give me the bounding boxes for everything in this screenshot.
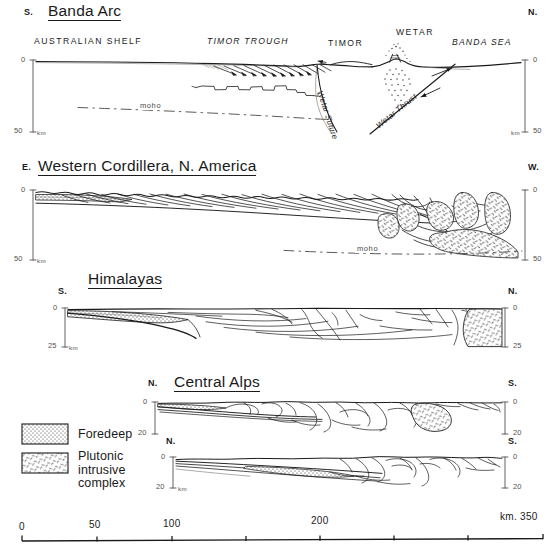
central-alps-lower-depth-bottom-right: 20	[513, 483, 521, 491]
western-cordillera-depth-top-left: 0	[21, 186, 25, 194]
banda-arc-depth-bottom-right: 50	[533, 127, 541, 135]
banda-arc-depth-bottom-left: 50	[14, 127, 22, 135]
banda-arc-depth-unit-left: km	[37, 130, 46, 136]
scalebar-tick-50: 50	[89, 520, 101, 530]
banda-arc-depth-top-right: 0	[533, 56, 537, 64]
central-alps-title: Central Alps	[174, 374, 260, 392]
central-alps-lower-right-direction: S.	[508, 437, 517, 446]
himalayas-depth-top-left: 0	[53, 304, 57, 312]
banda-arc-left-direction: S.	[24, 8, 33, 17]
scalebar-tick-100: 100	[163, 519, 181, 529]
western-cordillera-depth-unit-left: km	[37, 258, 46, 264]
banda-arc-depth-unit-right: km	[511, 130, 520, 136]
banda-arc-moho-label: moho	[138, 102, 163, 110]
himalayas-depth-top-right: 0	[513, 304, 517, 312]
western-cordillera-depth-top-right: 0	[533, 186, 537, 194]
western-cordillera-moho-label: moho	[355, 245, 380, 253]
western-cordillera-left-direction: E.	[22, 163, 31, 172]
himalayas-title: Himalayas	[88, 271, 162, 289]
region-wetar: WETAR	[396, 28, 434, 37]
central-alps-upper-depth-bottom-left: 20	[138, 429, 146, 437]
himalayas-depth-unit-left: km	[69, 345, 78, 351]
central-alps-upper-depth-top-right: 0	[513, 398, 517, 406]
central-alps-upper-depth-top-left: 0	[143, 398, 147, 406]
himalayas-depth-bottom-right: 25	[513, 342, 521, 350]
scalebar-tick-200: 200	[311, 516, 329, 526]
legend-label-foredeep: Foredeep	[78, 428, 132, 442]
region-australian-shelf: AUSTRALIAN SHELF	[34, 37, 142, 46]
legend-label-pluton: Plutonic intrusive complex	[78, 450, 170, 491]
central-alps-upper-left-direction: N.	[148, 379, 158, 388]
region-banda-sea: BANDA SEA	[452, 38, 512, 47]
western-cordillera-right-direction: W.	[528, 163, 539, 172]
legend-swatch-pluton	[22, 453, 68, 473]
banda-arc-title: Banda Arc	[48, 3, 121, 21]
central-alps-lower-depth-unit-left: km	[178, 486, 187, 492]
himalayas-right-direction: N.	[508, 287, 518, 296]
banda-arc-right-direction: N.	[528, 8, 538, 17]
banda-arc-depth-top-left: 0	[21, 56, 25, 64]
scalebar-end-label: km. 350	[500, 512, 538, 522]
central-alps-lower-depth-top-right: 0	[513, 453, 517, 461]
region-timor-trough: TIMOR TROUGH	[207, 37, 289, 46]
legend-swatch-foredeep	[22, 424, 68, 444]
central-alps-lower-left-direction: N.	[166, 437, 176, 446]
western-cordillera-title: Western Cordillera, N. America	[38, 158, 256, 176]
figure-root: S. Banda Arc N. AUSTRALIAN SHELF TIMOR T…	[0, 0, 558, 557]
region-timor: TIMOR	[328, 39, 363, 48]
himalayas-left-direction: S.	[58, 287, 67, 296]
western-cordillera-depth-bottom-left: 50	[14, 255, 22, 263]
central-alps-upper-right-direction: S.	[508, 379, 517, 388]
scalebar-tick-0: 0	[19, 522, 25, 532]
himalayas-depth-bottom-left: 25	[48, 342, 56, 350]
scalebar-line	[22, 534, 543, 542]
western-cordillera-depth-bottom-right: 50	[533, 255, 541, 263]
